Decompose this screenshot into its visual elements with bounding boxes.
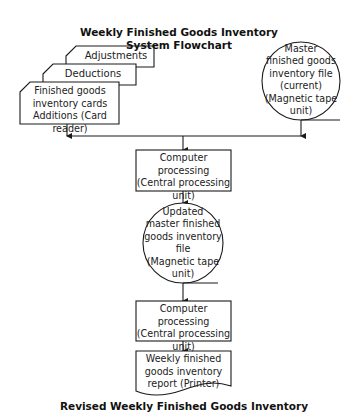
master-file-label: Master finished goods inventory file (cu… bbox=[261, 43, 341, 117]
report-line-1: Weekly finished bbox=[136, 353, 231, 366]
additions-line-1: Finished goods bbox=[20, 85, 120, 98]
additions-label: Finished goods inventory cards Additions… bbox=[20, 85, 120, 135]
adjustments-label: Adjustments bbox=[78, 50, 154, 63]
updated-line-2: master finished bbox=[143, 218, 223, 230]
title-line-1: Weekly Finished Goods Inventory bbox=[79, 26, 279, 39]
process-2-line-3: unit) bbox=[136, 341, 231, 354]
report-label: Weekly finished goods inventory report (… bbox=[136, 353, 231, 391]
updated-line-4: file bbox=[143, 243, 223, 255]
process-1-line-2: (Central processing bbox=[136, 177, 231, 190]
master-line-4: (current) bbox=[261, 80, 341, 92]
process-1-label: Computer processing (Central processing … bbox=[136, 152, 231, 202]
diagram-caption: Revised Weekly Finished Goods Inventory bbox=[59, 400, 309, 413]
process-1-line-1: Computer processing bbox=[136, 152, 231, 177]
process-2-line-1: Computer processing bbox=[136, 303, 231, 328]
updated-line-3: goods inventory bbox=[143, 231, 223, 243]
process-1-line-3: unit) bbox=[136, 190, 231, 203]
updated-file-label: Updated master finished goods inventory … bbox=[143, 206, 223, 280]
master-line-3: inventory file bbox=[261, 68, 341, 80]
master-line-5: (Magnetic tape bbox=[261, 93, 341, 105]
deductions-label: Deductions bbox=[53, 68, 133, 81]
additions-line-2: inventory cards bbox=[20, 98, 120, 111]
master-line-2: finished goods bbox=[261, 55, 341, 67]
additions-line-3: Additions (Card reader) bbox=[20, 110, 120, 135]
updated-line-6: unit) bbox=[143, 268, 223, 280]
updated-line-5: (Magnetic tape bbox=[143, 256, 223, 268]
updated-line-1: Updated bbox=[143, 206, 223, 218]
master-line-6: unit) bbox=[261, 105, 341, 117]
diagram-title: Weekly Finished Goods Inventory System F… bbox=[79, 26, 279, 51]
process-2-label: Computer processing (Central processing … bbox=[136, 303, 231, 353]
report-line-2: goods inventory bbox=[136, 366, 231, 379]
report-line-3: report (Printer) bbox=[136, 378, 231, 391]
process-2-line-2: (Central processing bbox=[136, 328, 231, 341]
master-line-1: Master bbox=[261, 43, 341, 55]
